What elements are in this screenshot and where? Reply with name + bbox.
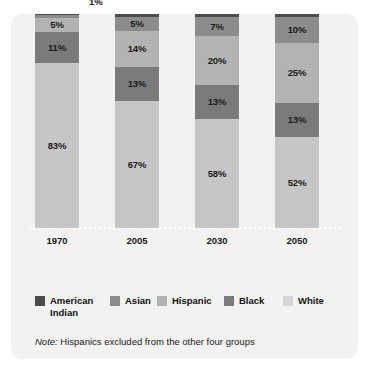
note-text: Hispanics excluded from the other four g… (58, 336, 255, 347)
x-tick-label-1970: 1970 (27, 235, 87, 246)
segment-label-black-2050: 13% (288, 115, 307, 125)
segment-label-white-1970: 83% (48, 141, 67, 151)
bar-2030[interactable]: 7% 20% 13% 58% (195, 14, 239, 228)
segment-white-1970: 83% (35, 63, 79, 228)
segment-white-2050: 52% (275, 137, 319, 228)
legend-swatch-black-icon (224, 296, 234, 306)
segment-label-black-2005: 13% (128, 79, 147, 89)
segment-label-asian-2050: 10% (288, 25, 307, 35)
legend-item-black[interactable]: Black (224, 295, 264, 307)
bar-group-2030: 1% 7% 20% 13% 58% 2030 (195, 14, 239, 228)
note-lead: Note: (35, 336, 58, 347)
segment-black-1970: 11% (35, 32, 79, 63)
legend-label-asian: Asian (125, 295, 151, 307)
segment-white-2030: 58% (195, 119, 239, 228)
callout-line-asian: 1% (89, 0, 111, 8)
stacked-bar-chart: 0.5% 1% 5% 11% 83% 1970 1% (11, 14, 358, 290)
legend-label-hispanic: Hispanic (172, 295, 212, 307)
segment-asian-2005: 5% (115, 17, 159, 31)
segment-asian-2050: 10% (275, 17, 319, 43)
segment-asian-2030: 7% (195, 17, 239, 36)
segment-label-asian-2030: 7% (210, 22, 224, 32)
legend-label-black: Black (239, 295, 264, 307)
segment-label-hispanic-2005: 14% (128, 44, 147, 54)
segment-black-2050: 13% (275, 103, 319, 137)
bar-group-2050: 1% 10% 25% 13% 52% 2050 (275, 14, 319, 228)
segment-hispanic-2005: 14% (115, 31, 159, 67)
segment-hispanic-2030: 20% (195, 36, 239, 85)
legend-swatch-asian-icon (110, 296, 120, 306)
segment-label-asian-2005: 5% (130, 19, 144, 29)
segment-hispanic-1970: 5% (35, 18, 79, 32)
segment-hispanic-2050: 25% (275, 43, 319, 103)
x-tick-label-2050: 2050 (267, 235, 327, 246)
segment-label-hispanic-2030: 20% (208, 56, 227, 66)
bar-2005[interactable]: 5% 14% 13% 67% (115, 14, 159, 228)
chart-card: 0.5% 1% 5% 11% 83% 1970 1% (11, 14, 358, 359)
legend-item-american-indian[interactable]: American Indian (35, 295, 93, 319)
legend-item-hispanic[interactable]: Hispanic (157, 295, 212, 307)
legend-swatch-american-indian-icon (35, 296, 45, 306)
segment-black-2005: 13% (115, 67, 159, 101)
segment-label-white-2030: 58% (208, 169, 227, 179)
callout-1970: 0.5% 1% (89, 0, 111, 8)
legend-swatch-hispanic-icon (157, 296, 167, 306)
segment-label-hispanic-1970: 5% (50, 20, 64, 30)
bar-2050[interactable]: 10% 25% 13% 52% (275, 14, 319, 228)
segment-black-2030: 13% (195, 85, 239, 119)
bar-group-2005: 1% 5% 14% 13% 67% 2005 (115, 14, 159, 228)
legend-swatch-white-icon (283, 296, 293, 306)
x-tick-label-2030: 2030 (187, 235, 247, 246)
segment-white-2005: 67% (115, 101, 159, 228)
segment-label-black-2030: 13% (208, 97, 227, 107)
legend-label-american-indian: American Indian (50, 295, 93, 319)
chart-legend: American Indian Asian Hispanic Black Whi… (11, 295, 358, 331)
segment-label-white-2005: 67% (128, 160, 147, 170)
legend-label-white: White (298, 295, 324, 307)
x-tick-label-2005: 2005 (107, 235, 167, 246)
legend-item-white[interactable]: White (283, 295, 324, 307)
segment-label-hispanic-2050: 25% (288, 68, 307, 78)
bar-group-1970: 0.5% 1% 5% 11% 83% 1970 (35, 14, 79, 228)
bar-1970[interactable]: 5% 11% 83% (35, 14, 79, 228)
segment-label-black-1970: 11% (48, 43, 66, 53)
legend-item-asian[interactable]: Asian (110, 295, 151, 307)
segment-label-white-2050: 52% (288, 178, 307, 188)
chart-note: Note: Hispanics excluded from the other … (35, 336, 255, 347)
